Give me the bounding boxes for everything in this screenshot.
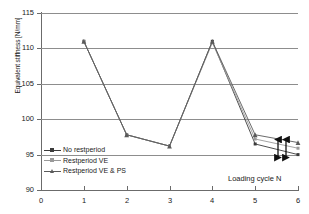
data-point (254, 142, 257, 145)
series-layer (0, 0, 309, 214)
series-1 (82, 40, 299, 156)
series-line (84, 41, 298, 154)
legend-label: Restperiod VE & PS (63, 166, 126, 177)
delta-annotations (278, 140, 286, 158)
data-point (210, 39, 215, 44)
data-point (297, 153, 300, 156)
chart-figure: Equivalent stiffness [N/mm] Loading cycl… (0, 0, 309, 214)
series-3 (81, 39, 300, 149)
legend-marker-icon (44, 167, 61, 176)
data-point (81, 39, 86, 44)
legend-label: Restperiod VE (63, 156, 108, 167)
legend-item: Restperiod VE (44, 156, 126, 167)
series-line (84, 41, 298, 146)
legend-marker-icon (44, 156, 61, 165)
legend-item: Restperiod VE & PS (44, 166, 126, 177)
legend-item: No restperiod (44, 145, 126, 156)
data-point (254, 138, 257, 141)
data-point (297, 147, 300, 150)
legend-marker-icon (44, 146, 61, 155)
legend-label: No restperiod (63, 145, 105, 156)
chart-legend: No restperiodRestperiod VERestperiod VE … (44, 145, 126, 177)
